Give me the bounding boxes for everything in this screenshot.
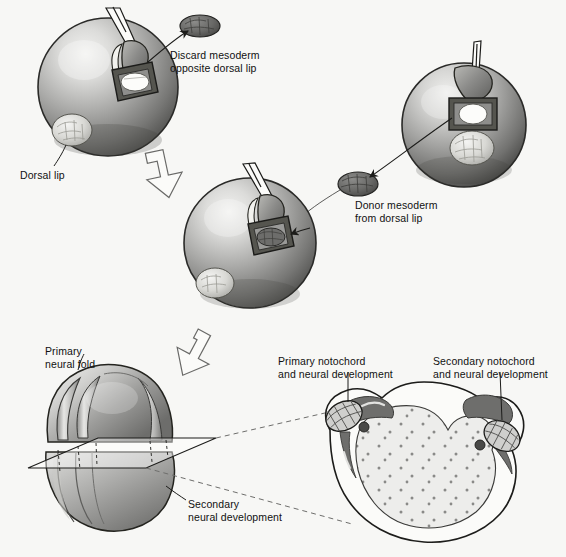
process-arrow-1: [141, 147, 186, 201]
label-primary-notochord: Primary notochord and neural development: [278, 355, 393, 380]
primary-notochord-dot: [359, 422, 369, 432]
excision-window-donor: [449, 98, 497, 130]
discarded-mesoderm-disc: [180, 15, 220, 37]
grafted-mesoderm: [257, 228, 285, 246]
label-primary-neural-fold: Primary neural fold: [45, 345, 95, 370]
dorsal-lip-leader: [54, 145, 66, 166]
label-secondary-neural-development: Secondary neural development: [188, 498, 282, 523]
grafted-dorsal-lip-patch: [196, 268, 234, 298]
host-embryo-group: [38, 7, 220, 166]
figure-canvas: Discard mesoderm opposite dorsal lip Dor…: [0, 0, 566, 557]
label-dorsal-lip: Dorsal lip: [20, 169, 65, 182]
dorsal-lip-patch: [52, 114, 92, 146]
cross-section-group: [321, 372, 526, 542]
label-donor-mesoderm: Donor mesoderm from dorsal lip: [355, 199, 438, 224]
grafted-embryo-group: [184, 163, 316, 309]
donor-embryo-group: [296, 41, 526, 222]
diagram-artwork: [0, 0, 566, 557]
process-arrow-2: [167, 324, 221, 383]
secondary-notochord-dot: [475, 440, 485, 450]
label-discard-mesoderm: Discard mesoderm opposite dorsal lip: [170, 49, 260, 74]
donor-dorsal-lip-patch: [450, 131, 494, 165]
label-secondary-notochord: Secondary notochord and neural developme…: [433, 355, 548, 380]
